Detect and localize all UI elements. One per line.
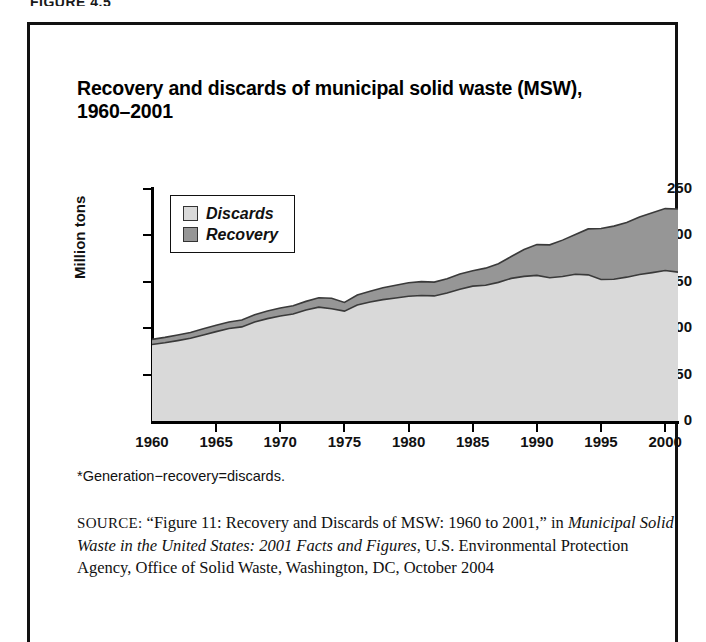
source-text-part1: “Figure 11: Recovery and Discards of MSW… xyxy=(147,513,568,532)
x-tick-mark xyxy=(600,424,602,432)
x-tick-mark xyxy=(664,424,666,432)
y-tick-mark xyxy=(143,374,152,376)
y-tick-mark xyxy=(143,327,152,329)
x-tick-label: 1975 xyxy=(317,433,371,450)
figure-frame: Recovery and discards of municipal solid… xyxy=(27,22,678,642)
x-tick-label: 2000 xyxy=(638,433,692,450)
legend-item-discards: Discards xyxy=(183,203,278,224)
chart-area-msw-recovery-discards: Million tons 050100150200250 19601965197… xyxy=(77,175,692,450)
x-tick-mark xyxy=(343,424,345,432)
legend-label-discards: Discards xyxy=(206,205,274,223)
x-tick-label: 1995 xyxy=(574,433,628,450)
source-prefix: SOURCE: xyxy=(77,515,142,531)
y-tick-mark xyxy=(143,188,152,190)
y-tick-mark xyxy=(143,234,152,236)
legend-swatch-recovery xyxy=(183,227,198,242)
legend-label-recovery: Recovery xyxy=(206,226,278,244)
x-tick-mark xyxy=(536,424,538,432)
legend-item-recovery: Recovery xyxy=(183,224,278,245)
footnote: *Generation−recovery=discards. xyxy=(77,468,285,484)
x-tick-label: 1960 xyxy=(125,433,179,450)
x-tick-mark xyxy=(215,424,217,432)
source-citation: SOURCE: “Figure 11: Recovery and Discard… xyxy=(77,512,677,580)
legend-swatch-discards xyxy=(183,206,198,221)
chart-legend: Discards Recovery xyxy=(170,195,295,253)
x-tick-label: 1965 xyxy=(189,433,243,450)
page-title: Recovery and discards of municipal solid… xyxy=(77,77,637,123)
x-tick-label: 1985 xyxy=(446,433,500,450)
x-tick-label: 1970 xyxy=(253,433,307,450)
x-tick-mark xyxy=(408,424,410,432)
x-tick-label: 1990 xyxy=(510,433,564,450)
figure-label: FIGURE 4.5 xyxy=(30,0,111,6)
x-tick-mark xyxy=(472,424,474,432)
y-tick-mark xyxy=(143,281,152,283)
y-axis-label: Million tons xyxy=(71,196,88,279)
x-tick-mark xyxy=(279,424,281,432)
x-tick-label: 1980 xyxy=(382,433,436,450)
